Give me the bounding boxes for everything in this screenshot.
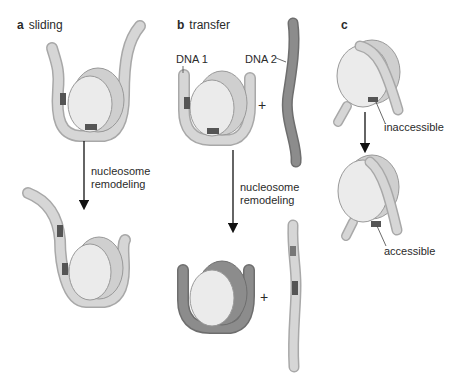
accessible-label: accessible bbox=[384, 245, 435, 257]
remodeling-label-a-line1: nucleosome bbox=[91, 165, 150, 177]
panel-c-letter: c bbox=[341, 18, 348, 32]
plus-sign-bottom: + bbox=[260, 291, 268, 303]
inaccessible-label: inaccessible bbox=[384, 121, 444, 133]
panel-c-heading: c bbox=[341, 19, 353, 31]
nucleosome-b-dna2 bbox=[183, 261, 249, 328]
dna1-free-strand bbox=[290, 225, 298, 367]
nucleosome-c-inaccessible bbox=[337, 40, 400, 122]
nucleosome-c-accessible bbox=[338, 155, 399, 236]
panel-a-letter: a bbox=[17, 18, 24, 32]
panel-b-heading: btransfer bbox=[177, 19, 230, 31]
panel-b-letter: b bbox=[177, 18, 184, 32]
dna2-leader bbox=[276, 58, 286, 62]
panel-b-title: transfer bbox=[189, 18, 230, 32]
nucleosome-a-after bbox=[28, 193, 125, 302]
nucleosome-a-before bbox=[52, 26, 140, 136]
remodeling-label-b-line2: remodeling bbox=[240, 194, 294, 206]
nucleosome-b-dna1 bbox=[184, 71, 250, 140]
inaccessible-leader bbox=[376, 102, 385, 123]
dna1-label: DNA 1 bbox=[176, 53, 208, 65]
remodeling-label-b-line1: nucleosome bbox=[240, 181, 299, 193]
panel-a-title: sliding bbox=[29, 18, 63, 32]
dna2-label: DNA 2 bbox=[245, 53, 277, 65]
remodeling-label-a-line2: remodeling bbox=[91, 178, 145, 190]
accessible-leader bbox=[377, 226, 386, 246]
dna2-strand bbox=[287, 23, 296, 162]
diagram-canvas bbox=[0, 0, 459, 381]
plus-sign-top: + bbox=[258, 99, 266, 111]
panel-a-heading: asliding bbox=[17, 19, 63, 31]
